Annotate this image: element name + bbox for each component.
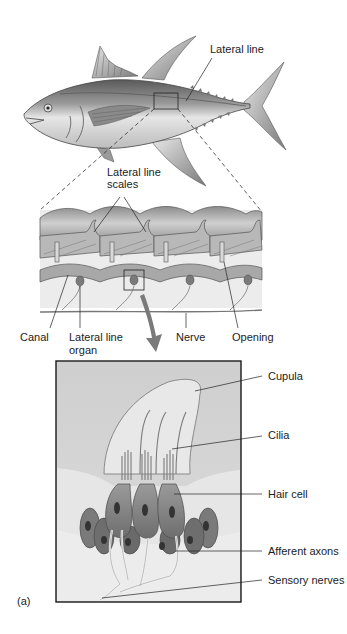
label-lateral-line: Lateral line <box>210 43 264 55</box>
label-lateral-line-organ-line2: organ <box>69 344 97 356</box>
label-afferent-axons: Afferent axons <box>268 545 339 557</box>
lateral-line-figure: Lateral line Lateral line scales Canal L… <box>0 0 347 634</box>
organ-detail-box <box>56 361 262 602</box>
label-opening: Opening <box>232 331 274 343</box>
label-canal: Canal <box>20 331 49 343</box>
panel-label: (a) <box>17 595 30 607</box>
tuna-fish <box>24 36 286 186</box>
figure-illustration <box>0 0 347 634</box>
label-sensory-nerves: Sensory nerves <box>268 574 344 586</box>
label-cilia: Cilia <box>268 429 289 441</box>
label-hair-cell: Hair cell <box>268 488 308 500</box>
label-cupula: Cupula <box>268 370 303 382</box>
label-lateral-line-organ-line1: Lateral line <box>69 331 123 343</box>
scales-cross-section <box>40 197 262 328</box>
label-nerve: Nerve <box>176 331 205 343</box>
label-lateral-line-scales-line1: Lateral line <box>107 166 161 178</box>
label-lateral-line-scales-line2: scales <box>107 178 138 190</box>
